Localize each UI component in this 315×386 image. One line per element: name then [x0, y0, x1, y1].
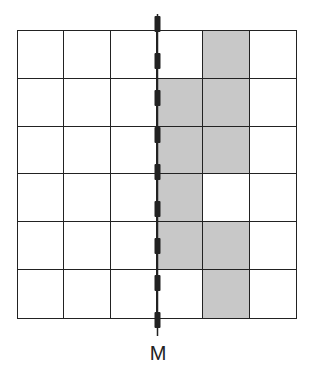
grid-cell	[18, 174, 64, 222]
grid-cell	[18, 222, 64, 270]
grid-cell	[203, 174, 249, 222]
dashed-line-icon	[154, 14, 161, 336]
axis-line-m	[154, 14, 161, 336]
grid-cell	[157, 31, 203, 79]
grid-cell	[111, 31, 157, 79]
diagram-canvas: M	[0, 0, 315, 386]
grid-cell	[64, 31, 110, 79]
grid-cell	[18, 79, 64, 127]
grid-cell	[250, 79, 296, 127]
grid-cell-shaded	[157, 127, 203, 175]
grid-cell-shaded	[157, 174, 203, 222]
axis-label: M	[146, 342, 170, 365]
grid-cell	[250, 222, 296, 270]
grid-cell	[64, 79, 110, 127]
grid-cell-shaded	[203, 270, 249, 318]
grid-cell	[111, 174, 157, 222]
grid-cell	[18, 127, 64, 175]
grid-cell	[18, 270, 64, 318]
grid-cell	[111, 79, 157, 127]
grid-cell	[111, 270, 157, 318]
grid-cell	[111, 222, 157, 270]
grid-cell	[250, 31, 296, 79]
grid-cell	[250, 270, 296, 318]
grid-cell-shaded	[157, 222, 203, 270]
grid-cell-shaded	[203, 79, 249, 127]
grid-cell	[64, 222, 110, 270]
grid-cell	[64, 127, 110, 175]
grid-cell-shaded	[157, 79, 203, 127]
grid-cell	[157, 270, 203, 318]
grid-cell	[18, 31, 64, 79]
grid-cell	[250, 174, 296, 222]
grid-cell	[64, 174, 110, 222]
grid-cell-shaded	[203, 31, 249, 79]
grid-cell-shaded	[203, 222, 249, 270]
grid-cell	[64, 270, 110, 318]
grid-cell-shaded	[203, 127, 249, 175]
grid-cell	[250, 127, 296, 175]
grid-cell	[111, 127, 157, 175]
